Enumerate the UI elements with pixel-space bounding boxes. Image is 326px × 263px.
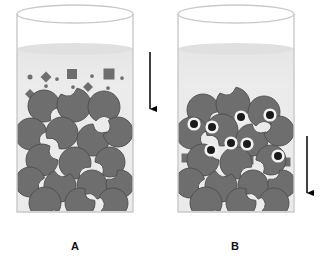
solute-square [104,69,115,80]
panel-b-label: B [215,240,255,252]
captured-solute-dot [227,139,235,147]
captured-solute-dot [274,152,282,160]
liquid-meniscus [17,43,133,55]
solute-circle [28,75,33,80]
solute-square [67,69,77,79]
adsorbent-particle [29,187,61,219]
solute-circle [71,85,75,89]
solute-circle [120,76,124,80]
figure-canvas [0,0,326,263]
beaker-panel-a [15,5,134,219]
beaker-panel-b [175,5,296,219]
panel-a-label: A [55,240,95,252]
captured-solute-dot [243,140,251,148]
captured-solute-dot [237,113,245,121]
beaker-rim [17,5,133,23]
adsorbent-particle [190,187,222,219]
liquid-meniscus [178,43,294,55]
captured-solute-dot [266,111,274,119]
solute-circle [106,86,110,90]
beaker-rim [178,5,294,23]
captured-solute-dot [208,123,216,131]
captured-solute-dot [207,146,215,154]
solute-circle [44,84,48,88]
adsorbent-particle [88,91,120,121]
solute-circle [55,77,59,81]
captured-solute-dot [190,120,198,128]
solute-circle [90,74,94,78]
